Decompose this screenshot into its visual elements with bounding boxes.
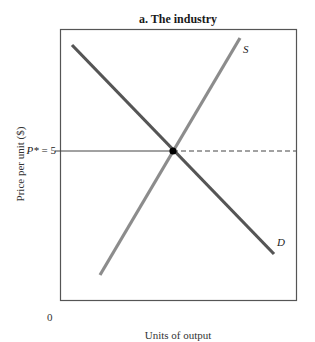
industry-chart: a. The industry Price per unit ($) P* = …: [0, 0, 315, 342]
x-axis-label: Units of output: [60, 329, 296, 341]
supply-label: S: [243, 43, 249, 55]
demand-label: D: [277, 236, 285, 248]
supply-curve: [100, 38, 240, 275]
pstar-symbol: P*: [27, 144, 39, 156]
origin-label: 0: [47, 311, 53, 323]
chart-plot: [0, 0, 315, 342]
equilibrium-price-label: P* = 5: [27, 144, 56, 156]
equilibrium-point: [169, 147, 176, 154]
pstar-value: = 5: [39, 144, 56, 156]
y-axis-label: Price per unit ($): [14, 127, 26, 202]
